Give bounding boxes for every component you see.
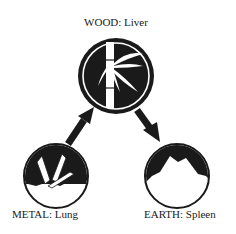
earth-node — [140, 140, 214, 208]
metal-lung-label: METAL: Lung — [12, 209, 78, 220]
arrow-wood-to-earth — [137, 110, 160, 142]
metal-node — [24, 140, 88, 208]
five-elements-diagram: WOOD: Liver METAL: Lung EARTH: Spleen — [0, 0, 236, 234]
wood-node — [78, 38, 154, 114]
arrow-metal-to-wood — [68, 107, 94, 144]
wood-liver-label: WOOD: Liver — [0, 17, 234, 28]
diagram-graphics — [0, 0, 236, 234]
earth-spleen-label: EARTH: Spleen — [144, 209, 216, 220]
